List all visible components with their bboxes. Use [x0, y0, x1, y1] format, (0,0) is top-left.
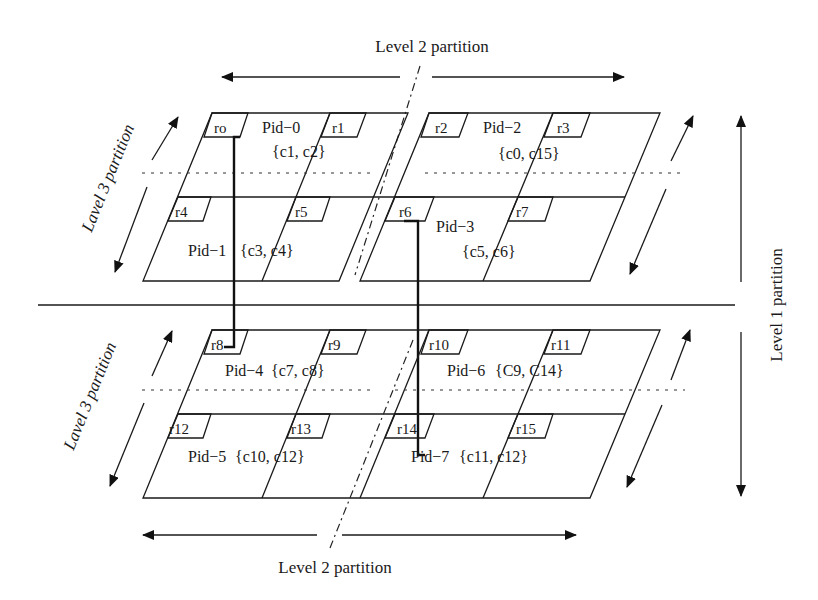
partition-cores: {c7, c8} — [271, 362, 325, 379]
router-label: r9 — [328, 337, 341, 353]
router-label: r7 — [516, 204, 529, 220]
link-r6-r14 — [404, 221, 425, 455]
router-label: r4 — [175, 204, 188, 220]
router-label: r8 — [211, 337, 224, 353]
level3-arrows-lower-left — [110, 331, 172, 486]
level2-divider-bottom — [330, 340, 413, 548]
upper-plane: ro r1 r2 r3 r4 r5 r6 r7 Pid−0 {c1, c2} P… — [142, 113, 685, 281]
router-label: r1 — [332, 120, 345, 136]
level3-arrows-upper-right — [630, 116, 693, 274]
partition-diagram: Level 2 partition ro r1 r2 r3 r4 r5 r6 r… — [0, 0, 818, 600]
level2-top-label: Level 2 partition — [375, 37, 489, 56]
level1-label: Level 1 partition — [767, 248, 786, 362]
router-label: r5 — [295, 204, 308, 220]
partition-id: Pid−6 — [447, 362, 485, 379]
partition-cores: {c10, c12} — [235, 448, 305, 465]
router-label: r14 — [397, 421, 417, 437]
partition-id: Pid−1 — [188, 242, 226, 259]
partition-cores: {c3, c4} — [240, 242, 294, 259]
router-label: r3 — [557, 120, 570, 136]
partition-id: Pid−7 — [411, 448, 449, 465]
partition-id: Pid−0 — [262, 119, 300, 136]
partition-id: Pid−3 — [436, 218, 474, 235]
level3-top-label: Lavel 3 partition — [77, 121, 138, 235]
router-label: r2 — [435, 120, 448, 136]
level3-bottom-label: Lavel 3 partition — [59, 339, 120, 453]
router-label: r13 — [291, 421, 311, 437]
partition-id: Pid−2 — [483, 119, 521, 136]
router-label: r11 — [551, 337, 570, 353]
router-label: r6 — [399, 204, 412, 220]
partition-cores: {c11, c12} — [459, 448, 528, 465]
partition-cores: {C9, C14} — [495, 362, 564, 379]
partition-id: Pid−5 — [188, 448, 226, 465]
level2-divider-top — [355, 66, 420, 275]
partition-cores: {c0, c15} — [498, 145, 560, 162]
router-label: r15 — [516, 421, 536, 437]
router-label: r10 — [429, 337, 449, 353]
level3-arrows-lower-right — [627, 330, 690, 487]
link-ro-r8 — [224, 137, 240, 347]
partition-id: Pid−4 — [225, 362, 263, 379]
partition-cores: {c5, c6} — [462, 243, 516, 260]
partition-cores: {c1, c2} — [272, 143, 326, 160]
router-label: r12 — [169, 421, 189, 437]
router-label: ro — [214, 120, 227, 136]
lower-plane: r8 r9 r10 r11 r12 r13 r14 r15 Pid−4 {c7,… — [142, 330, 685, 498]
level2-bottom-label: Level 2 partition — [278, 558, 392, 577]
